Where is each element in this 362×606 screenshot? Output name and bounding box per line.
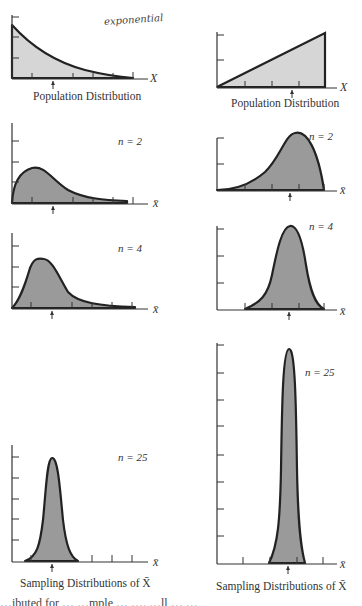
right-sampling-caption: Sampling Distributions of X̄ [216, 580, 347, 592]
left-n25-label: n = 25 [118, 451, 147, 463]
right-n2-chart [217, 133, 337, 201]
left-population-chart [12, 15, 148, 89]
right-n4-x-label: x̄ [340, 304, 345, 319]
left-n2-label: n = 2 [118, 135, 142, 147]
cut-off-text-line: …ibuted for … …mple … …. …ll … … [0, 596, 362, 606]
right-population-x-label: X [340, 80, 347, 95]
left-n4-x-label: x̄ [153, 302, 158, 317]
right-n25-x-label: x̄ [340, 557, 345, 572]
left-population-x-label: X [150, 71, 157, 86]
left-n25-x-label: x̄ [153, 555, 158, 570]
left-n25-chart [12, 445, 148, 572]
right-n4-label: n = 4 [309, 220, 333, 232]
right-population-caption: Population Distribution [231, 97, 339, 109]
left-population-caption: Population Distribution [33, 90, 141, 102]
right-n2-x-label: x̄ [340, 183, 345, 198]
right-n2-label: n = 2 [309, 130, 333, 142]
right-n25-label: n = 25 [305, 366, 334, 378]
left-n2-x-label: x̄ [153, 196, 158, 211]
left-sampling-caption: Sampling Distributions of X̄ [20, 577, 151, 589]
cut-off-text: …ibuted for … …mple … …. …ll … … [0, 596, 198, 606]
right-n4-chart [217, 226, 337, 320]
left-n4-label: n = 4 [118, 242, 142, 254]
right-population-chart [217, 32, 337, 98]
